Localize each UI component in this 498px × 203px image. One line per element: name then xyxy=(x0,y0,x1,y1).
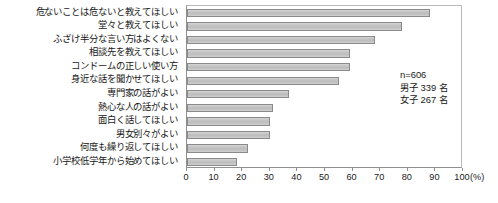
x-axis-tick-mark xyxy=(352,168,353,171)
x-axis-tick-label: 70 xyxy=(374,172,384,182)
x-axis: 0102030405060708090100 xyxy=(186,168,463,188)
horizontal-bar-chart: 危ないことは危ないと教えてほしい堂々と教えてほしいふざけ半分な言い方はよくない相… xyxy=(0,0,498,203)
category-label: 身近な話を聞かせてほしい xyxy=(71,73,178,86)
category-label: 何度も繰り返してほしい xyxy=(80,141,178,154)
x-axis-tick-label: 0 xyxy=(183,172,188,182)
x-axis-tick-mark xyxy=(324,168,325,171)
x-axis-tick-label: 90 xyxy=(429,172,439,182)
sample-female-label: 女子 267 名 xyxy=(400,94,448,107)
bar xyxy=(187,131,270,139)
x-axis-tick-label: 100 xyxy=(454,172,469,182)
category-label: 専門家の話がよい xyxy=(107,87,178,100)
x-axis-tick-mark xyxy=(269,168,270,171)
x-axis-tick-label: 60 xyxy=(346,172,356,182)
category-label: 相談先を教えてほしい xyxy=(89,46,178,59)
x-axis-tick-label: 50 xyxy=(319,172,329,182)
x-axis-tick-label: 40 xyxy=(291,172,301,182)
category-label: 小学校低学年から始めてほしい xyxy=(53,155,178,168)
x-axis-tick-mark xyxy=(434,168,435,171)
x-axis-tick-label: 80 xyxy=(402,172,412,182)
bar xyxy=(187,104,273,112)
bar xyxy=(187,49,350,57)
category-axis: 危ないことは危ないと教えてほしい堂々と教えてほしいふざけ半分な言い方はよくない相… xyxy=(0,5,182,168)
x-axis-tick-mark xyxy=(462,168,463,171)
x-axis-tick-mark xyxy=(407,168,408,171)
sample-size-annotation: n=606 男子 339 名 女子 267 名 xyxy=(400,69,448,107)
bar xyxy=(187,36,375,44)
x-axis-tick-mark xyxy=(296,168,297,171)
x-axis-tick-label: 30 xyxy=(264,172,274,182)
category-label: 堂々と教えてほしい xyxy=(98,19,178,32)
bar xyxy=(187,90,289,98)
sample-total-label: n=606 xyxy=(400,69,448,82)
bar xyxy=(187,63,350,71)
x-axis-unit-label: (%) xyxy=(470,172,484,182)
category-label: ふざけ半分な言い方はよくない xyxy=(53,33,178,46)
x-axis-tick-mark xyxy=(379,168,380,171)
bar xyxy=(187,22,402,30)
x-axis-tick-mark xyxy=(214,168,215,171)
bar xyxy=(187,117,270,125)
category-label: 男女別々がよい xyxy=(116,128,178,141)
category-label: コンドームの正しい使い方 xyxy=(71,60,178,73)
category-label: 面白く話してほしい xyxy=(98,114,178,127)
x-axis-tick-label: 10 xyxy=(208,172,218,182)
category-label: 熱心な人の話がよい xyxy=(98,101,178,114)
bar xyxy=(187,144,248,152)
x-axis-tick-mark xyxy=(186,168,187,171)
sample-male-label: 男子 339 名 xyxy=(400,82,448,95)
category-label: 危ないことは危ないと教えてほしい xyxy=(36,6,178,19)
x-axis-tick-mark xyxy=(241,168,242,171)
bar xyxy=(187,158,237,166)
x-axis-tick-label: 20 xyxy=(236,172,246,182)
bar xyxy=(187,77,339,85)
bar xyxy=(187,9,430,17)
